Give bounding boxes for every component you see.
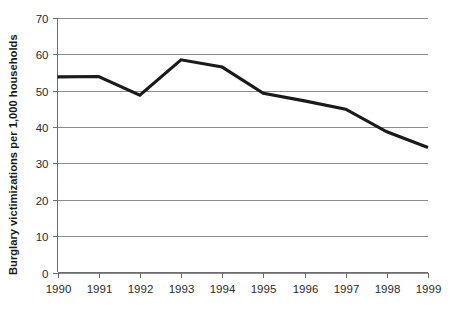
y-axis-tick-label: 0 bbox=[42, 268, 48, 280]
x-axis-tick-label: 1995 bbox=[251, 283, 277, 295]
y-axis-tick-label: 20 bbox=[36, 195, 49, 207]
y-axis-tick-label: 50 bbox=[36, 86, 49, 98]
x-axis-tick-label: 1999 bbox=[416, 283, 442, 295]
y-axis-tick-label: 10 bbox=[36, 231, 49, 243]
burglary-victimizations-line-chart: 010203040506070 199019911992199319941995… bbox=[0, 0, 452, 309]
y-axis-title: Burglary victimizations per 1,000 househ… bbox=[7, 34, 19, 275]
x-axis-tick-label: 1990 bbox=[46, 283, 72, 295]
x-axis-tick-label: 1996 bbox=[293, 283, 319, 295]
y-axis-tick-label: 30 bbox=[36, 158, 49, 170]
x-axis-tick-label: 1998 bbox=[375, 283, 401, 295]
x-axis-tick-label: 1992 bbox=[128, 283, 154, 295]
y-axis-tick-label: 40 bbox=[36, 122, 49, 134]
y-axis-tick-label: 60 bbox=[36, 49, 49, 61]
chart-canvas: 010203040506070 199019911992199319941995… bbox=[0, 0, 452, 309]
chart-background bbox=[0, 0, 452, 309]
x-axis-tick-label: 1997 bbox=[334, 283, 360, 295]
x-axis-tick-label: 1993 bbox=[169, 283, 195, 295]
x-axis-tick-label: 1991 bbox=[87, 283, 113, 295]
y-axis-tick-label: 70 bbox=[36, 13, 49, 25]
x-axis-tick-label: 1994 bbox=[210, 283, 236, 295]
